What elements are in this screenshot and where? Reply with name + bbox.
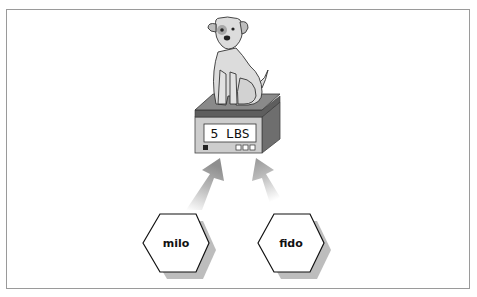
scale-button-1 (236, 145, 241, 150)
scale-button-3 (250, 145, 255, 150)
arrow-fido-to-scale (252, 158, 288, 210)
dog-illustration (208, 17, 268, 105)
node-milo-label: milo (163, 237, 190, 250)
scale-display-text: 5 LBS (210, 126, 249, 141)
node-fido-label: fido (279, 237, 303, 250)
scale-power-button (203, 145, 208, 150)
scale-button-2 (243, 145, 248, 150)
node-milo: milo (143, 214, 216, 279)
diagram-canvas: 5 LBS milo f (0, 0, 477, 297)
node-fido: fido (258, 214, 331, 279)
arrow-milo-to-scale (186, 158, 224, 210)
